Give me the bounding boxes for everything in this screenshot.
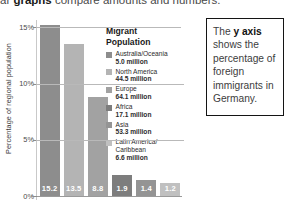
callout-emphasis: y axis [233, 26, 261, 37]
caption-prefix: ar [0, 0, 13, 6]
bar-value-label: 15.2 [40, 184, 60, 193]
legend-swatch-icon [106, 105, 112, 111]
bar-value-label: 1.9 [112, 184, 132, 193]
callout-rest: shows the percentage of foreign immigran… [213, 39, 275, 104]
caption-suffix: compare amounts and numbers. [52, 0, 221, 6]
legend-amount: 6.6 million [116, 154, 185, 162]
legend-item: Australia/Oceania5.0 million [106, 50, 184, 65]
legend-item: Asia53.3 million [106, 121, 184, 136]
callout-box: The y axis shows the percentage of forei… [206, 18, 284, 116]
legend-amount: 44.5 million [116, 75, 158, 83]
y-axis-tick-labels: 15%10%5%0% [10, 12, 34, 216]
bar-value-label: 13.5 [64, 184, 84, 193]
y-tick-label: 10% [12, 79, 34, 88]
legend-swatch-icon [106, 140, 112, 146]
bar: 8.8 [88, 97, 108, 196]
legend: Migrant Population Australia/Oceania5.0 … [106, 26, 184, 164]
legend-label: Europe64.1 million [116, 85, 152, 100]
legend-label: Asia53.3 million [116, 121, 152, 136]
gridline [36, 84, 184, 85]
legend-label: Latin America/ Caribbean6.6 million [116, 138, 185, 161]
bar: 15.2 [40, 25, 60, 196]
x-axis-line [31, 196, 182, 197]
page-caption: ar graphs compare amounts and numbers. [0, 0, 290, 7]
legend-amount: 17.1 million [116, 111, 152, 119]
bar-value-label: 8.8 [88, 184, 108, 193]
bar-chart: Percentage of regional population 15%10%… [0, 12, 186, 216]
bar: 1.2 [160, 183, 180, 197]
legend-label: North America44.5 million [116, 68, 158, 83]
y-tick-label: 5% [12, 135, 34, 144]
legend-swatch-icon [106, 87, 112, 93]
bar: 1.4 [136, 180, 156, 196]
legend-item-list: Australia/Oceania5.0 millionNorth Americ… [106, 50, 184, 161]
bar-value-label: 1.2 [160, 184, 180, 193]
legend-item: Africa17.1 million [106, 103, 184, 118]
legend-amount: 64.1 million [116, 93, 152, 101]
y-tick-mark [33, 196, 37, 197]
legend-amount: 53.3 million [116, 128, 152, 136]
callout-lead: The [213, 26, 233, 37]
legend-swatch-icon [106, 69, 112, 75]
y-tick-label: 15% [12, 23, 34, 32]
callout-text: The y axis shows the percentage of forei… [213, 25, 278, 105]
gridline [36, 27, 181, 28]
bar: 1.9 [112, 175, 132, 196]
legend-title: Migrant Population [106, 26, 162, 47]
legend-item: Latin America/ Caribbean6.6 million [106, 138, 184, 161]
bar-value-label: 1.4 [136, 184, 156, 193]
legend-item: North America44.5 million [106, 68, 184, 83]
bar: 13.5 [64, 44, 84, 196]
legend-swatch-icon [106, 122, 112, 128]
legend-label: Australia/Oceania5.0 million [116, 50, 168, 65]
gridline [36, 140, 184, 141]
legend-label: Africa17.1 million [116, 103, 152, 118]
legend-amount: 5.0 million [116, 58, 168, 66]
legend-swatch-icon [106, 52, 112, 58]
caption-emphasis: graphs [13, 0, 51, 6]
legend-item: Europe64.1 million [106, 85, 184, 100]
